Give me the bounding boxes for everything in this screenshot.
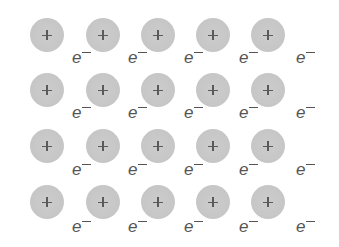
electron-symbol: e — [72, 48, 81, 67]
plus-sign-icon — [267, 30, 268, 40]
electron-symbol: e — [72, 103, 81, 122]
negative-charge-icon: − — [82, 107, 91, 108]
electron-symbol: e — [239, 48, 248, 67]
positive-ion-r1-c4 — [196, 18, 230, 52]
negative-charge-icon: − — [249, 221, 258, 222]
positive-ion-r2-c4 — [196, 73, 230, 107]
electron-symbol: e — [72, 160, 81, 179]
electron-symbol: e — [184, 103, 193, 122]
plus-sign-icon — [46, 141, 47, 151]
electron-symbol: e — [296, 103, 305, 122]
plus-sign-icon — [212, 197, 213, 207]
plus-sign-icon — [102, 141, 103, 151]
negative-charge-icon: − — [138, 221, 147, 222]
electron-label-r1-c4: e− — [239, 48, 258, 68]
plus-sign-icon — [212, 85, 213, 95]
electron-symbol: e — [128, 160, 137, 179]
negative-charge-icon: − — [194, 164, 203, 165]
electron-symbol: e — [239, 217, 248, 236]
plus-sign-icon — [102, 197, 103, 207]
electron-label-r1-c2: e− — [128, 48, 147, 68]
negative-charge-icon: − — [306, 164, 315, 165]
electron-label-r2-c1: e− — [72, 103, 91, 123]
electron-symbol: e — [296, 217, 305, 236]
positive-ion-r2-c2 — [86, 73, 120, 107]
positive-ion-r2-c1 — [30, 73, 64, 107]
electron-symbol: e — [128, 217, 137, 236]
positive-ion-r1-c3 — [141, 18, 175, 52]
positive-ion-r3-c4 — [196, 129, 230, 163]
plus-sign-icon — [157, 85, 158, 95]
positive-ion-r4-c2 — [86, 185, 120, 219]
positive-ion-r3-c1 — [30, 129, 64, 163]
electron-symbol: e — [239, 160, 248, 179]
metallic-bonding-diagram: e− e− e− e− e− e− e− e− e− e− e− e− e− e… — [0, 0, 339, 247]
plus-sign-icon — [212, 141, 213, 151]
electron-symbol: e — [296, 160, 305, 179]
electron-symbol: e — [128, 103, 137, 122]
plus-sign-icon — [46, 197, 47, 207]
electron-label-r3-c3: e− — [184, 160, 203, 180]
positive-ion-r3-c3 — [141, 129, 175, 163]
positive-ion-r1-c1 — [30, 18, 64, 52]
electron-symbol: e — [72, 217, 81, 236]
plus-sign-icon — [212, 30, 213, 40]
electron-label-r3-c2: e− — [128, 160, 147, 180]
negative-charge-icon: − — [306, 221, 315, 222]
positive-ion-r4-c4 — [196, 185, 230, 219]
positive-ion-r1-c5 — [251, 18, 285, 52]
negative-charge-icon: − — [306, 107, 315, 108]
electron-label-r2-c4: e− — [239, 103, 258, 123]
electron-symbol: e — [128, 48, 137, 67]
plus-sign-icon — [267, 197, 268, 207]
negative-charge-icon: − — [138, 164, 147, 165]
negative-charge-icon: − — [82, 221, 91, 222]
plus-sign-icon — [102, 30, 103, 40]
electron-symbol: e — [239, 103, 248, 122]
plus-sign-icon — [102, 85, 103, 95]
electron-label-r2-c3: e− — [184, 103, 203, 123]
plus-sign-icon — [46, 30, 47, 40]
negative-charge-icon: − — [194, 221, 203, 222]
plus-sign-icon — [157, 30, 158, 40]
electron-label-r4-c4: e− — [239, 217, 258, 237]
plus-sign-icon — [267, 85, 268, 95]
positive-ion-r4-c5 — [251, 185, 285, 219]
electron-label-r3-c4: e− — [239, 160, 258, 180]
positive-ion-r3-c5 — [251, 129, 285, 163]
electron-label-r1-c5: e− — [296, 48, 315, 68]
plus-sign-icon — [157, 197, 158, 207]
electron-symbol: e — [184, 48, 193, 67]
positive-ion-r4-c3 — [141, 185, 175, 219]
negative-charge-icon: − — [249, 164, 258, 165]
negative-charge-icon: − — [249, 52, 258, 53]
plus-sign-icon — [46, 85, 47, 95]
electron-label-r4-c2: e− — [128, 217, 147, 237]
electron-label-r4-c5: e− — [296, 217, 315, 237]
negative-charge-icon: − — [138, 107, 147, 108]
negative-charge-icon: − — [82, 52, 91, 53]
electron-label-r1-c3: e− — [184, 48, 203, 68]
negative-charge-icon: − — [194, 52, 203, 53]
negative-charge-icon: − — [82, 164, 91, 165]
electron-symbol: e — [184, 217, 193, 236]
plus-sign-icon — [157, 141, 158, 151]
positive-ion-r1-c2 — [86, 18, 120, 52]
negative-charge-icon: − — [249, 107, 258, 108]
positive-ion-r3-c2 — [86, 129, 120, 163]
electron-symbol: e — [184, 160, 193, 179]
positive-ion-r2-c3 — [141, 73, 175, 107]
electron-label-r3-c1: e− — [72, 160, 91, 180]
electron-label-r4-c3: e− — [184, 217, 203, 237]
negative-charge-icon: − — [138, 52, 147, 53]
negative-charge-icon: − — [194, 107, 203, 108]
positive-ion-r2-c5 — [251, 73, 285, 107]
positive-ion-r4-c1 — [30, 185, 64, 219]
electron-label-r3-c5: e− — [296, 160, 315, 180]
electron-symbol: e — [296, 48, 305, 67]
electron-label-r2-c2: e− — [128, 103, 147, 123]
negative-charge-icon: − — [306, 52, 315, 53]
electron-label-r4-c1: e− — [72, 217, 91, 237]
electron-label-r2-c5: e− — [296, 103, 315, 123]
plus-sign-icon — [267, 141, 268, 151]
